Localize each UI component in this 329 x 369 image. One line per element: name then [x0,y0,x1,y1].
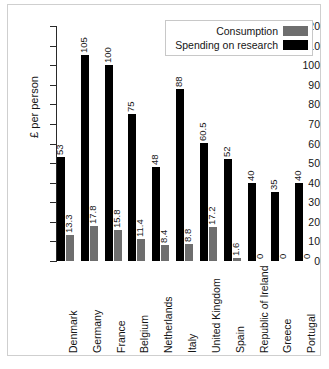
bar-consumption[interactable] [161,245,169,261]
bar-value-label: 105 [79,38,88,54]
bar-value-label: 52 [222,147,231,158]
bar-spending-on-research[interactable] [248,183,256,261]
chart-frame: £ per person 010203040506070809010011012… [7,4,321,356]
bar-spending-on-research[interactable] [81,55,89,261]
bar-value-label: 0 [302,254,311,259]
y-axis-title: £ per person [28,61,40,153]
x-axis-category-label: Germany [92,310,102,353]
bar-value-label: 75 [126,102,135,113]
x-axis-category-label: Greece [282,319,292,353]
x-axis-category-label: Portugal [306,314,316,353]
legend-item-research: Spending on research [170,38,308,52]
bar-spending-on-research[interactable] [105,65,113,261]
bar-value-label: 0 [278,254,287,259]
bar-spending-on-research[interactable] [271,192,279,261]
bar-value-label: 8.8 [183,229,192,242]
bar-spending-on-research[interactable] [295,183,303,261]
plot-area: 5313.310517.810015.87511.4488.4888.860.5… [56,26,318,261]
bar-value-label: 48 [150,154,159,165]
legend-label-consumption: Consumption [216,25,278,37]
bar-value-label: 17.8 [88,206,97,225]
bar-value-label: 100 [103,47,112,63]
x-axis-category-label: Belgium [139,315,149,353]
bar-spending-on-research[interactable] [128,114,136,261]
bar-group: 400 [295,26,319,261]
bar-value-label: 15.8 [112,210,121,229]
x-axis-category-label: Spain [235,326,245,353]
x-axis-category-label: Netherlands [163,296,173,353]
x-axis-category-label: Denmark [68,310,78,353]
bar-value-label: 40 [293,170,302,181]
bar-value-label: 11.4 [135,219,144,237]
bar-consumption[interactable] [90,226,98,261]
bar-group: 7511.4 [128,26,152,261]
legend-swatch-research [283,40,308,50]
bar-value-label: 40 [246,170,255,181]
bar-group: 488.4 [152,26,176,261]
bar-spending-on-research[interactable] [57,157,65,261]
bar-group: 5313.3 [57,26,81,261]
bar-group: 10015.8 [105,26,129,261]
bar-spending-on-research[interactable] [152,167,160,261]
y-tick-mark [50,261,56,262]
bar-value-label: 88 [174,76,183,87]
bar-group: 521.6 [224,26,248,261]
bar-value-label: 35 [269,180,278,191]
bar-value-label: 60.5 [198,122,207,141]
x-axis-category-label: France [116,320,126,353]
bar-value-label: 17.2 [207,207,216,226]
legend-item-consumption: Consumption [170,24,308,38]
bar-value-label: 13.3 [64,214,73,233]
legend-swatch-consumption [283,26,308,36]
bar-value-label: 1.6 [231,243,240,256]
legend-label-research: Spending on research [175,39,278,51]
bar-consumption[interactable] [66,235,74,261]
bar-value-label: 8.4 [159,229,168,242]
x-axis-category-label: Italy [187,334,197,353]
bar-group: 60.517.2 [200,26,224,261]
bar-consumption[interactable] [209,227,217,261]
chart-legend: Consumption Spending on research [165,20,313,56]
bar-consumption[interactable] [185,244,193,261]
bar-group: 400 [248,26,272,261]
bar-value-label: 0 [255,254,264,259]
bar-group: 350 [271,26,295,261]
bar-spending-on-research[interactable] [200,143,208,261]
bar-consumption[interactable] [233,258,241,261]
bar-consumption[interactable] [137,239,145,261]
bar-consumption[interactable] [114,230,122,261]
x-axis-category-label: United Kingdom [211,278,221,353]
x-axis-category-label: Republic of Ireland [259,265,269,353]
bar-value-label: 53 [55,145,64,156]
bar-group: 888.8 [176,26,200,261]
